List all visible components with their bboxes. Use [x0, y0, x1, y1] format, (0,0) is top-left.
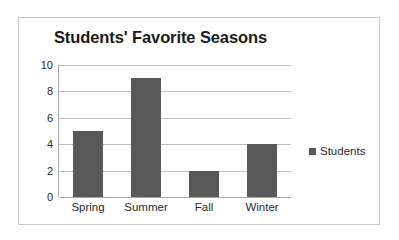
- bar-winter[interactable]: [247, 144, 277, 197]
- y-axis-tick-label: 10: [19, 59, 53, 71]
- y-axis-tick-labels: 1086420: [19, 65, 53, 197]
- bar-summer[interactable]: [131, 78, 161, 197]
- plot-area: [59, 65, 291, 197]
- y-axis-tick-label: 4: [19, 138, 53, 150]
- chart-container: Students' Favorite Seasons 1086420 Sprin…: [18, 17, 380, 225]
- y-axis-tick-label: 0: [19, 191, 53, 203]
- bar-slot: [233, 65, 291, 197]
- bar-fall[interactable]: [189, 171, 219, 197]
- x-axis-tick-label-spring: Spring: [59, 201, 117, 213]
- chart-title: Students' Favorite Seasons: [19, 28, 302, 47]
- x-axis-tick-labels: SpringSummerFallWinter: [59, 201, 291, 221]
- y-axis-tick-label: 2: [19, 165, 53, 177]
- x-axis-tick-label-summer: Summer: [117, 201, 175, 213]
- x-axis-line: [59, 197, 291, 198]
- x-axis-tick-label-winter: Winter: [233, 201, 291, 213]
- bar-slot: [59, 65, 117, 197]
- y-axis-tick-label: 6: [19, 112, 53, 124]
- chart-legend: Students: [309, 145, 365, 157]
- y-axis-tick-label: 8: [19, 85, 53, 97]
- bar-slot: [117, 65, 175, 197]
- legend-label-students: Students: [320, 145, 365, 157]
- bar-slot: [175, 65, 233, 197]
- x-axis-tick-label-fall: Fall: [175, 201, 233, 213]
- bar-spring[interactable]: [73, 131, 103, 197]
- legend-swatch-icon: [309, 148, 316, 155]
